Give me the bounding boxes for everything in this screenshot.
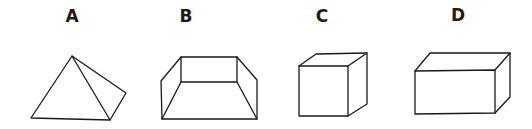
rectangular-prism-shape	[415, 53, 510, 114]
shapes-canvas	[0, 0, 532, 129]
open-box-shape	[161, 57, 257, 119]
cube-shape	[299, 53, 367, 116]
pyramid-shape	[31, 56, 126, 120]
